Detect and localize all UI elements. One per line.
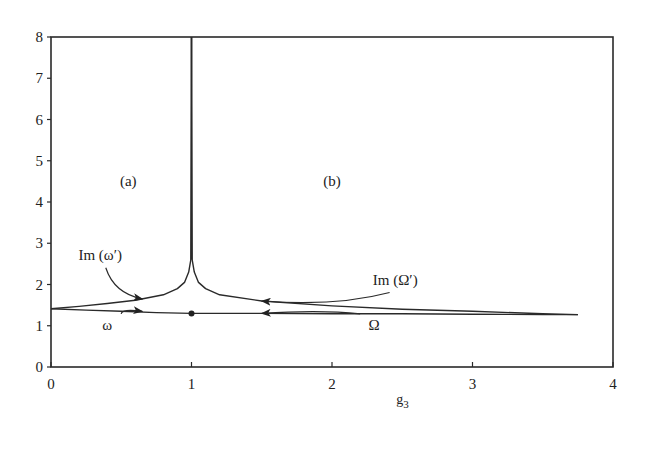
plot-border (51, 37, 613, 367)
x-axis-label: g3 (396, 392, 409, 410)
region-label: (a) (120, 173, 137, 190)
annotations: (a)(b)Im (ω′)Im (Ω′)ωΩ (78, 173, 417, 333)
y-tick-label: 0 (36, 359, 44, 375)
annotation-arrow (262, 293, 390, 303)
annotation-label: Im (Ω′) (373, 272, 418, 289)
x-tick-label: 1 (188, 376, 196, 392)
plot-frame (51, 37, 613, 367)
chart: 01234012345678 (a)(b)Im (ω′)Im (Ω′)ωΩ g3 (0, 0, 647, 455)
critical-point-marker (189, 310, 195, 316)
annotation-arrow (106, 268, 143, 299)
y-tick-label: 7 (36, 70, 44, 86)
region-label: (b) (323, 173, 341, 190)
annotation-label: ω (102, 317, 112, 333)
y-tick-label: 3 (36, 235, 44, 251)
x-tick-label: 0 (47, 376, 55, 392)
y-tick-label: 4 (36, 194, 44, 210)
x-tick-label: 3 (469, 376, 477, 392)
y-tick-label: 8 (36, 29, 44, 45)
y-tick-label: 6 (36, 112, 44, 128)
annotation-label: Ω (369, 317, 380, 333)
y-tick-label: 5 (36, 153, 44, 169)
y-tick-label: 2 (36, 277, 44, 293)
axis-ticks: 01234012345678 (36, 29, 618, 392)
x-tick-label: 2 (328, 376, 336, 392)
x-tick-label: 4 (609, 376, 617, 392)
annotation-label: Im (ω′) (78, 247, 122, 264)
y-tick-label: 1 (36, 318, 44, 334)
